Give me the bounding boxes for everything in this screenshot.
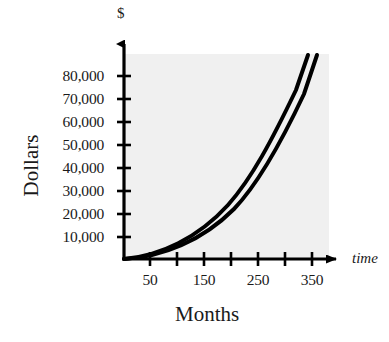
x-tick-label: 350 xyxy=(288,272,336,288)
series-line-upper-curve xyxy=(124,55,308,259)
y-tick-label: 40,000 xyxy=(28,160,104,176)
y-axis-unit-label: $ xyxy=(117,6,125,21)
x-axis-name-label: time xyxy=(352,251,378,266)
x-tick-label: 150 xyxy=(180,272,228,288)
x-tick-label: 50 xyxy=(126,272,174,288)
y-tick-label: 20,000 xyxy=(28,206,104,222)
chart-figure: $ time Dollars Months 80,000 70,000 60,0… xyxy=(0,0,389,342)
series-line-lower-curve xyxy=(124,55,317,259)
y-tick-label: 60,000 xyxy=(28,114,104,130)
y-tick-label: 30,000 xyxy=(28,183,104,199)
y-tick-label: 70,000 xyxy=(28,91,104,107)
y-tick-label: 10,000 xyxy=(28,229,104,245)
x-axis-title: Months xyxy=(175,304,239,325)
x-tick-label: 250 xyxy=(234,272,282,288)
y-tick-label: 50,000 xyxy=(28,137,104,153)
y-tick-label: 80,000 xyxy=(28,68,104,84)
